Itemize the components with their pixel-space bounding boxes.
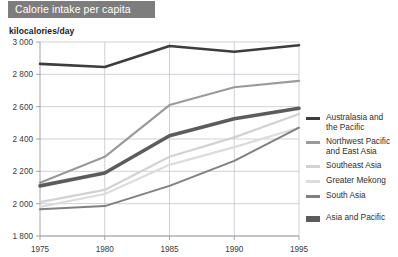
legend-item-label: South Asia [326, 191, 366, 201]
legend-item[interactable]: Australasia and the Pacific [306, 113, 398, 132]
legend-item[interactable]: Greater Mekong [306, 176, 398, 186]
chart-page: Calorie intake per capita kilocalories/d… [0, 0, 398, 257]
legend: Australasia and the PacificNorthwest Pac… [306, 113, 398, 228]
legend-item-label: Asia and Pacific [326, 213, 385, 223]
y-tick-label: 2 000 [13, 200, 34, 209]
legend-item[interactable]: Northwest Pacific and East Asia [306, 137, 398, 156]
y-tick-label: 2 800 [13, 70, 34, 79]
y-axis-ticks: 1 8002 0002 2002 4002 6002 8003 000 [13, 38, 41, 241]
legend-swatch-icon [306, 117, 320, 120]
legend-swatch-icon [306, 180, 320, 183]
y-tick-label: 2 600 [13, 103, 34, 112]
legend-swatch-icon [306, 195, 320, 198]
legend-item-label: Greater Mekong [326, 176, 386, 186]
y-tick-label: 1 800 [13, 232, 34, 241]
legend-item-label: Southeast Asia [326, 161, 381, 171]
legend-swatch-icon [306, 165, 320, 168]
legend-item[interactable]: Southeast Asia [306, 161, 398, 171]
x-tick-label: 1995 [290, 245, 309, 254]
legend-swatch-icon [306, 216, 320, 222]
x-tick-label: 1985 [160, 245, 179, 254]
legend-item[interactable]: South Asia [306, 191, 398, 201]
y-tick-label: 2 200 [13, 167, 34, 176]
legend-item[interactable]: Asia and Pacific [306, 213, 398, 223]
legend-swatch-icon [306, 141, 320, 144]
x-tick-label: 1980 [96, 245, 115, 254]
y-tick-label: 2 400 [13, 135, 34, 144]
legend-item-label: Northwest Pacific and East Asia [326, 137, 390, 156]
x-axis-ticks: 19751980198519901995 [31, 236, 309, 254]
legend-item-label: Australasia and the Pacific [326, 113, 383, 132]
y-tick-label: 3 000 [13, 38, 34, 47]
x-tick-label: 1975 [31, 245, 50, 254]
x-tick-label: 1990 [225, 245, 244, 254]
